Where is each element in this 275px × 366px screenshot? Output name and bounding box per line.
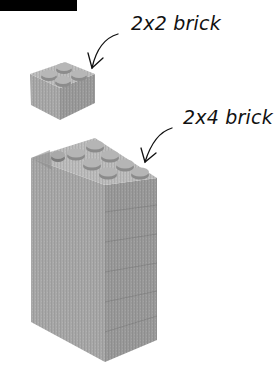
stud	[86, 141, 104, 153]
arrow-2x2	[88, 34, 118, 68]
stud	[99, 168, 117, 180]
stud	[67, 149, 85, 161]
bricks-illustration	[0, 0, 275, 366]
brick-stack-2x4	[31, 138, 157, 362]
stud	[56, 63, 72, 74]
stud	[41, 70, 57, 81]
stud	[83, 159, 101, 171]
stud	[116, 160, 134, 172]
stud	[101, 151, 119, 163]
stud	[51, 151, 65, 162]
stud	[131, 168, 149, 180]
label-2x4-brick: 2x4 brick	[183, 106, 273, 128]
stud	[71, 70, 87, 81]
brick-2x2	[30, 62, 95, 120]
arrow-2x4	[141, 128, 172, 162]
stud	[55, 76, 71, 87]
label-2x2-brick: 2x2 brick	[131, 12, 221, 34]
